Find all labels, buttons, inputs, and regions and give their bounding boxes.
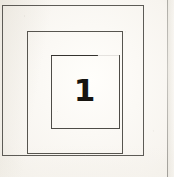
center-label-text: 1 — [74, 75, 96, 106]
center-label: 1 — [51, 55, 120, 129]
scan-edge-shadow — [168, 0, 174, 177]
scan-edge-line — [167, 0, 168, 177]
figure-canvas: 1 — [0, 0, 174, 177]
